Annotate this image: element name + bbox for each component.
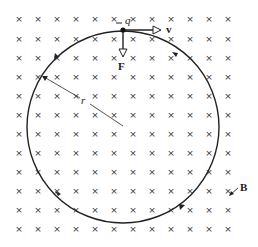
field-cross-icon: ×: [72, 186, 80, 196]
force-label: F: [118, 60, 125, 72]
field-cross-icon: ×: [15, 110, 23, 120]
diagram-canvas: ××××××××××××××××××××××××××××××××××××××××…: [0, 0, 258, 247]
field-cross-icon: ×: [53, 205, 61, 215]
force-vector: F: [118, 30, 125, 72]
field-cross-icon: ×: [148, 72, 156, 82]
field-cross-icon: ×: [167, 91, 175, 101]
field-cross-icon: ×: [34, 34, 42, 44]
field-cross-icon: ×: [224, 224, 232, 234]
field-cross-icon: ×: [34, 186, 42, 196]
field-cross-icon: ×: [186, 91, 194, 101]
field-cross-icon: ×: [148, 110, 156, 120]
field-cross-icon: ×: [205, 14, 213, 24]
field-cross-icon: ×: [224, 14, 232, 24]
field-cross-icon: ×: [53, 224, 61, 234]
field-cross-icon: ×: [148, 186, 156, 196]
field-cross-icon: ×: [91, 53, 99, 63]
field-cross-icon: ×: [224, 167, 232, 177]
field-cross-icon: ×: [72, 224, 80, 234]
field-cross-icon: ×: [91, 14, 99, 24]
field-cross-icon: ×: [167, 148, 175, 158]
field-cross-icon: ×: [129, 34, 137, 44]
field-cross-icon: ×: [53, 129, 61, 139]
field-cross-icon: ×: [53, 110, 61, 120]
charge-label: q: [125, 14, 131, 26]
field-cross-icon: ×: [91, 224, 99, 234]
field-cross-icon: ×: [110, 186, 118, 196]
field-cross-icon: ×: [205, 224, 213, 234]
field-cross-icon: ×: [34, 110, 42, 120]
field-cross-icon: ×: [91, 148, 99, 158]
field-cross-icon: ×: [110, 53, 118, 63]
field-cross-icon: ×: [110, 167, 118, 177]
field-cross-icon: ×: [224, 34, 232, 44]
field-cross-icon: ×: [205, 110, 213, 120]
field-cross-icon: ×: [91, 205, 99, 215]
field-cross-icon: ×: [148, 205, 156, 215]
field-cross-icon: ×: [148, 53, 156, 63]
field-cross-icon: ×: [72, 72, 80, 82]
field-cross-icon: ×: [34, 224, 42, 234]
field-cross-icon: ×: [15, 14, 23, 24]
field-cross-icon: ×: [224, 129, 232, 139]
field-cross-icon: ×: [91, 110, 99, 120]
diagram-svg: ××××××××××××××××××××××××××××××××××××××××…: [0, 0, 258, 247]
field-cross-icon: ×: [91, 72, 99, 82]
field-cross-icon: ×: [15, 53, 23, 63]
field-cross-icon: ×: [72, 129, 80, 139]
field-cross-icon: ×: [110, 148, 118, 158]
field-cross-icon: ×: [148, 91, 156, 101]
field-cross-icon: ×: [205, 148, 213, 158]
field-cross-icon: ×: [167, 186, 175, 196]
field-cross-icon: ×: [129, 129, 137, 139]
radius-label: r: [81, 94, 86, 106]
field-cross-icon: ×: [167, 110, 175, 120]
field-cross-icon: ×: [91, 167, 99, 177]
field-cross-icon: ×: [186, 148, 194, 158]
field-cross-icon: ×: [53, 14, 61, 24]
field-cross-icon: ×: [186, 167, 194, 177]
field-cross-icon: ×: [186, 14, 194, 24]
field-cross-icon: ×: [224, 53, 232, 63]
field-cross-icon: ×: [34, 14, 42, 24]
field-cross-icon: ×: [148, 167, 156, 177]
field-cross-icon: ×: [129, 72, 137, 82]
field-cross-icon: ×: [72, 53, 80, 63]
field-cross-icon: ×: [129, 110, 137, 120]
field-cross-icon: ×: [205, 53, 213, 63]
field-cross-icon: ×: [15, 224, 23, 234]
field-cross-icon: ×: [53, 72, 61, 82]
field-cross-icon: ×: [224, 91, 232, 101]
field-cross-icon: ×: [72, 14, 80, 24]
field-label: B: [240, 181, 248, 193]
field-cross-icon: ×: [186, 129, 194, 139]
field-cross-icon: ×: [129, 148, 137, 158]
field-cross-icon: ×: [148, 14, 156, 24]
field-cross-icon: ×: [186, 224, 194, 234]
field-cross-icon: ×: [34, 91, 42, 101]
field-cross-icon: ×: [167, 224, 175, 234]
field-cross-icon: ×: [53, 34, 61, 44]
field-cross-icon: ×: [110, 205, 118, 215]
field-cross-icon: ×: [205, 129, 213, 139]
field-cross-icon: ×: [205, 34, 213, 44]
field-cross-icon: ×: [15, 167, 23, 177]
field-cross-icon: ×: [205, 205, 213, 215]
field-cross-icon: ×: [167, 129, 175, 139]
field-cross-icon: ×: [15, 91, 23, 101]
field-cross-icon: ×: [148, 129, 156, 139]
field-cross-icon: ×: [186, 34, 194, 44]
field-cross-icon: ×: [72, 110, 80, 120]
field-cross-icon: ×: [110, 34, 118, 44]
field-cross-icon: ×: [224, 205, 232, 215]
field-cross-icon: ×: [15, 205, 23, 215]
field-cross-icon: ×: [224, 148, 232, 158]
field-cross-icon: ×: [110, 72, 118, 82]
field-cross-icon: ×: [15, 72, 23, 82]
field-cross-icon: ×: [224, 110, 232, 120]
field-cross-icon: ×: [72, 148, 80, 158]
field-cross-icon: ×: [129, 167, 137, 177]
field-cross-icon: ×: [205, 91, 213, 101]
field-cross-icon: ×: [110, 91, 118, 101]
field-cross-icon: ×: [34, 205, 42, 215]
